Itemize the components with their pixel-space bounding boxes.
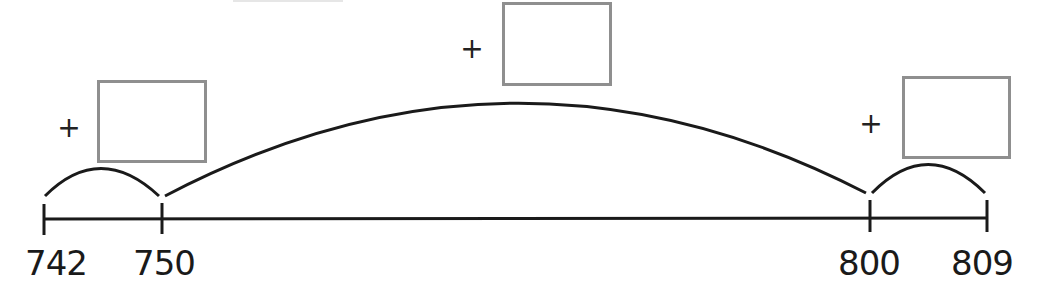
- answer-box-2[interactable]: [502, 2, 612, 86]
- plus-sign-2: +: [460, 35, 483, 63]
- tick-label-750: 750: [133, 246, 195, 280]
- number-line: [44, 218, 987, 219]
- tick-label-800: 800: [838, 246, 900, 280]
- plus-sign-1: +: [57, 114, 80, 142]
- jump-arc-800-809: [872, 165, 985, 194]
- plus-sign-3: +: [859, 110, 882, 138]
- jump-arc-750-800: [165, 103, 866, 196]
- answer-box-1[interactable]: [97, 80, 207, 163]
- jump-arc-742-750: [45, 169, 159, 197]
- answer-box-3[interactable]: [902, 76, 1011, 159]
- tick-label-809: 809: [951, 246, 1013, 280]
- tick-label-742: 742: [25, 246, 87, 280]
